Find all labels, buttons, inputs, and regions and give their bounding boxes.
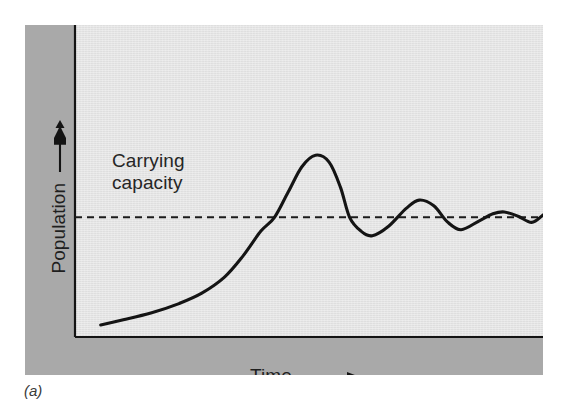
arrow-right-icon [299,371,361,375]
chart-svg [25,25,543,375]
figure-caption: (a) [24,382,42,399]
x-axis-label-text: Time [250,365,292,375]
arrow-up-icon [54,118,66,172]
y-axis-label-group: Population [48,116,70,276]
carrying-capacity-label: Carrying capacity [112,150,185,194]
y-axis-label-text: Population [48,183,69,274]
figure-panel: Carrying capacity Population Time [25,25,543,375]
x-axis-label-group: Time [250,365,361,375]
